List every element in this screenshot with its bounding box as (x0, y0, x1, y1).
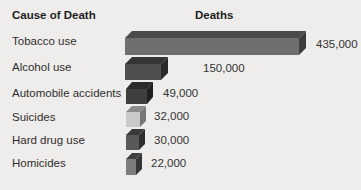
value-label: 435,000 (316, 38, 358, 50)
value-label: 22,000 (151, 157, 186, 169)
bar-homicides (126, 153, 142, 175)
bar-suicides (126, 106, 146, 127)
value-label: 150,000 (203, 62, 245, 74)
value-label: 32,000 (154, 110, 189, 122)
value-label: 49,000 (163, 87, 198, 99)
bar-alcohol-use (125, 57, 168, 80)
bar-automobile-accidents (126, 82, 153, 104)
value-label: 30,000 (154, 134, 189, 146)
bar-hard-drug-use (126, 129, 145, 150)
bar-tobacco-use (125, 31, 306, 55)
